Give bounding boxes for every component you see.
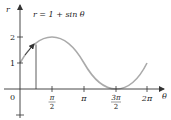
tick-label-1: 1 — [10, 59, 15, 68]
curve-r-equals-1-plus-sin-theta — [20, 37, 147, 89]
tick-label-2: 2 — [10, 33, 15, 42]
origin-label: 0 — [10, 93, 15, 102]
tick-label-three-pi-half-den: 2 — [114, 103, 118, 111]
tick-label-two-pi: 2π — [141, 94, 153, 103]
tick-label-pi-half-num: π — [49, 94, 55, 102]
tick-label-pi: π — [80, 94, 87, 103]
equation-label: r = 1 + sin θ — [33, 10, 85, 19]
r-axis-label: r — [6, 5, 11, 14]
polar-function-graph: r θ 2 1 0 π 2 π 3π 2 2π r = 1 + sin θ — [0, 0, 171, 120]
theta-axis-label: θ — [162, 92, 167, 101]
tick-label-pi-half-den: 2 — [50, 103, 54, 111]
direction-arrow — [25, 44, 34, 55]
tick-label-three-pi-half-num: 3π — [111, 94, 120, 102]
